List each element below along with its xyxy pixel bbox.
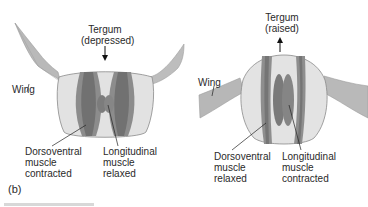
left-tergum-line2: (depressed)	[81, 35, 129, 46]
left-dv-line3: contracted	[25, 168, 82, 179]
panel-label-text: (b)	[8, 184, 21, 195]
right-wing-label: Wing	[198, 77, 221, 88]
panel-label: (b)	[8, 184, 21, 195]
right-tergum-line2: (raised)	[262, 23, 302, 34]
left-tergum-line1: Tergum	[81, 24, 129, 35]
left-long-line2: muscle	[103, 157, 157, 168]
caption-fragment	[4, 203, 94, 206]
left-long-line3: relaxed	[103, 168, 157, 179]
left-wing-label-text: Wing	[12, 84, 35, 95]
left-wing-left	[15, 23, 60, 80]
right-thorax-diagram	[199, 37, 368, 150]
right-dorsoventral-label: Dorsoventral muscle relaxed	[214, 151, 271, 184]
left-long-line1: Longitudinal	[103, 146, 157, 157]
right-wing-right	[324, 76, 368, 118]
right-tergum-line1: Tergum	[262, 12, 302, 23]
left-tergum-label: Tergum (depressed)	[81, 24, 129, 46]
left-dorsoventral-label: Dorsoventral muscle contracted	[25, 146, 82, 179]
right-long-line1: Longitudinal	[282, 151, 336, 162]
right-dv-line3: relaxed	[214, 173, 271, 184]
left-dv-line1: Dorsoventral	[25, 146, 82, 157]
right-longitudinal-label: Longitudinal muscle contracted	[282, 151, 336, 184]
right-tergum-label: Tergum (raised)	[262, 12, 302, 34]
right-long-line2: muscle	[282, 162, 336, 173]
right-dv-line1: Dorsoventral	[214, 151, 271, 162]
left-dv-line2: muscle	[25, 157, 82, 168]
left-longitudinal-muscle	[97, 95, 114, 113]
right-dv-line2: muscle	[214, 162, 271, 173]
left-wing-label: Wing	[12, 84, 35, 95]
right-long-line3: contracted	[282, 173, 336, 184]
tergum-raised-arrow-icon	[277, 37, 283, 52]
right-wing-label-text: Wing	[198, 77, 221, 88]
left-wing-right	[150, 44, 184, 84]
left-longitudinal-label: Longitudinal muscle relaxed	[103, 146, 157, 179]
tergum-depressed-arrow-icon	[102, 46, 108, 61]
